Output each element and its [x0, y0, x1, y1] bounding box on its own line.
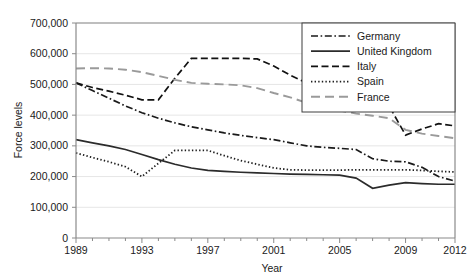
y-tick-label: 200,000 [30, 170, 68, 182]
chart-container: 0100,000200,000300,000400,000500,000600,… [0, 0, 470, 279]
x-tick-label: 2005 [328, 244, 352, 256]
line-chart: 0100,000200,000300,000400,000500,000600,… [0, 0, 470, 279]
x-tick-label: 2001 [262, 244, 286, 256]
x-axis-tick-labels: 1989199319972001200520092012 [64, 244, 467, 256]
x-tick-label: 2009 [394, 244, 418, 256]
legend: GermanyUnited KingdomItalySpainFrance [302, 23, 455, 112]
y-tick-label: 300,000 [30, 139, 68, 151]
y-axis-title: Force levels [12, 102, 24, 159]
x-tick-label: 1989 [64, 244, 88, 256]
legend-label-france: France [357, 91, 390, 103]
y-tick-label: 700,000 [30, 17, 68, 29]
x-tick-label: 1993 [130, 244, 154, 256]
x-axis-title: Year [261, 262, 283, 274]
y-tick-label: 600,000 [30, 47, 68, 59]
x-tick-label: 2012 [443, 244, 467, 256]
y-tick-label: 100,000 [30, 201, 68, 213]
y-tick-label: 500,000 [30, 78, 68, 90]
legend-label-italy: Italy [357, 60, 377, 72]
x-tick-label: 1997 [196, 244, 220, 256]
y-tick-label: 400,000 [30, 109, 68, 121]
y-tick-label: 0 [62, 232, 68, 244]
legend-label-germany: Germany [357, 30, 401, 42]
legend-label-spain: Spain [357, 75, 384, 87]
legend-label-united-kingdom: United Kingdom [357, 45, 432, 57]
y-axis-tick-labels: 0100,000200,000300,000400,000500,000600,… [30, 17, 68, 244]
series-line-united-kingdom [76, 140, 455, 189]
